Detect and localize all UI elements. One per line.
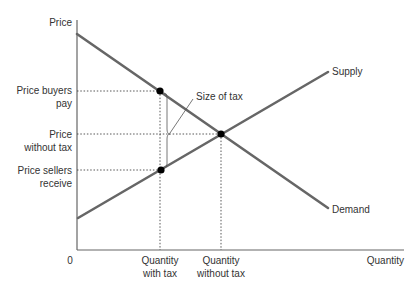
price-without-tax-label-1: Price <box>49 129 72 140</box>
quantity-with-tax-label-1: Quantity <box>141 255 178 266</box>
quantity-without-tax-label-2: without tax <box>196 268 245 279</box>
demand-curve <box>77 34 328 208</box>
demand-label: Demand <box>332 204 370 215</box>
price-sellers-receive-label-1: Price sellers <box>18 165 72 176</box>
price-sellers-receive-label-2: receive <box>40 178 73 189</box>
size-of-tax-leader <box>170 99 193 133</box>
point-sellers-receive <box>157 166 164 173</box>
price-without-tax-label-2: without tax <box>23 142 72 153</box>
point-buyers-pay <box>156 87 163 94</box>
quantity-with-tax-label-2: with tax <box>142 268 177 279</box>
guide-lines <box>77 91 221 250</box>
point-equilibrium-no-tax <box>217 130 224 137</box>
price-buyers-pay-label-1: Price buyers <box>16 85 72 96</box>
axes <box>77 20 404 250</box>
tax-incidence-diagram: Price Quantity 0 Price buyers pay Price … <box>0 0 420 291</box>
quantity-without-tax-label-1: Quantity <box>202 255 239 266</box>
y-axis-label: Price <box>49 17 72 28</box>
price-buyers-pay-label-2: pay <box>56 98 72 109</box>
x-axis-label: Quantity <box>367 255 404 266</box>
origin-label: 0 <box>67 255 73 266</box>
size-of-tax-label: Size of tax <box>196 91 243 102</box>
supply-label: Supply <box>332 66 363 77</box>
curves <box>77 34 328 218</box>
